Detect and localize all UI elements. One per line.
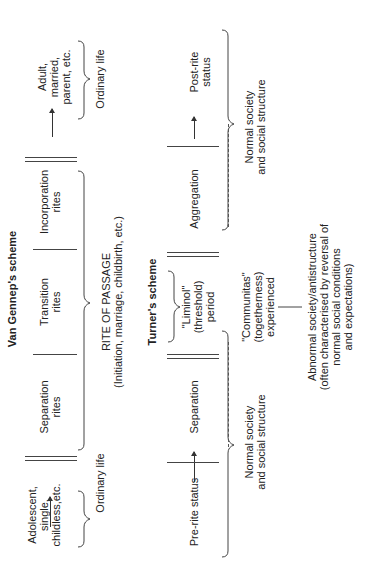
turner-end-arrow-icon bbox=[194, 117, 195, 139]
turner-start-arrow-icon bbox=[194, 452, 195, 482]
turner-phase-aggregation: Aggregation bbox=[188, 169, 200, 228]
turner-phase-liminal: "Liminol" (threshold) period bbox=[180, 281, 216, 334]
turner-normal-right: Normal society and social structure bbox=[243, 79, 267, 174]
turner-end-state: Post-rite status bbox=[188, 36, 212, 108]
turner-phase-separation: Separation bbox=[188, 380, 200, 433]
turner-dashed-right bbox=[228, 124, 229, 227]
turner-dashed-left bbox=[228, 342, 229, 447]
vg-ordinary-life-left: Ordinary life bbox=[94, 453, 106, 512]
vg-ordinary-life-right: Ordinary life bbox=[94, 49, 106, 108]
vg-rite-of-passage: RITE OF PASSAGE (Initiation, marriage, c… bbox=[100, 216, 124, 388]
turner-divider-4 bbox=[167, 146, 219, 147]
turner-divider-1 bbox=[167, 462, 219, 463]
turner-start-state: Pre-rite status bbox=[188, 478, 200, 546]
rites-of-passage-diagram: Van Gennep's scheme Adolescent, single, … bbox=[0, 0, 368, 577]
turner-communitas: "Communitas" (togetherness) experienced bbox=[240, 272, 276, 343]
turner-double-divider-2 bbox=[167, 354, 219, 359]
turner-abnormal: Abnormal society/antistructure (often ch… bbox=[306, 224, 354, 390]
turner-title: Turner's scheme bbox=[146, 259, 158, 346]
turner-double-divider-3 bbox=[167, 252, 219, 257]
turner-normal-left: Normal society and social structure bbox=[243, 394, 267, 489]
